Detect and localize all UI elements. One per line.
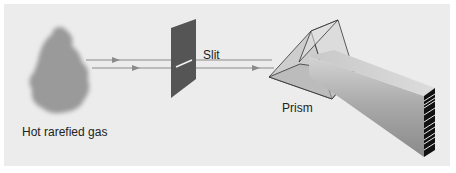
arrow-icon bbox=[132, 65, 140, 71]
slit-plate bbox=[171, 19, 196, 98]
dispersed-beam bbox=[309, 50, 435, 157]
slit-label: Slit bbox=[203, 48, 220, 62]
gas-cloud bbox=[29, 27, 89, 113]
diagram-panel: Hot rarefied gas Slit Prism bbox=[4, 4, 450, 166]
emission-spectrum bbox=[424, 88, 435, 157]
arrow-icon bbox=[112, 57, 120, 63]
spectroscope-diagram bbox=[4, 4, 450, 166]
arrow-icon bbox=[252, 65, 260, 71]
prism-label: Prism bbox=[282, 101, 313, 115]
gas-label: Hot rarefied gas bbox=[22, 125, 107, 139]
